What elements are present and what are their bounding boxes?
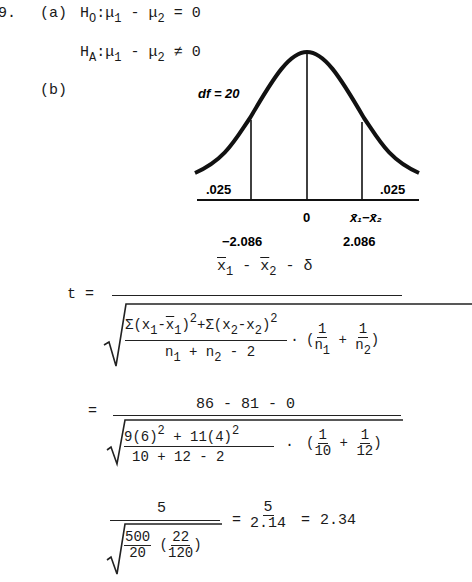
equals-sign: =: [88, 403, 97, 420]
right-tail-area: .025: [380, 182, 405, 197]
problem-number: 9.: [0, 5, 16, 22]
left-critical-value: −2.086: [222, 234, 262, 249]
substitution-inner-numerator: 9(6)2 + 11(4)2: [124, 424, 239, 445]
result-equals-2: =: [301, 512, 310, 529]
formula-fraction-bar: [112, 295, 402, 296]
inner-fraction-bar: [125, 340, 287, 341]
t-distribution-diagram: df = 20 .025 .025 0 x̄₁−x̄₂ −2.086 2.086: [180, 20, 472, 260]
substitution-inner-denominator: 10 + 12 - 2: [132, 449, 224, 465]
reciprocal-sum: (1n1 + 1n2): [306, 322, 379, 359]
inner-numerator: Σ(x1-x1)2+Σ(x2-x2)2: [125, 312, 277, 338]
substitution-reciprocal-sum: (110 + 112): [306, 428, 382, 459]
result-mid-fraction: 52.14: [250, 500, 286, 531]
inner-denominator: n1 + n2 - 2: [165, 344, 255, 365]
df-label: df = 20: [198, 86, 240, 101]
axis-label: x̄₁−x̄₂: [349, 210, 382, 225]
center-label: 0: [303, 210, 310, 225]
formula-numerator: x1 - x2 - δ: [217, 258, 312, 279]
t-label: t =: [67, 286, 94, 303]
result-root-content: 50020 (22120): [124, 530, 202, 561]
part-a-label: (a): [40, 5, 67, 22]
substitution-inner-bar: [124, 446, 274, 447]
part-b-label: (b): [40, 82, 67, 99]
substitution-numerator: 86 - 81 - 0: [196, 396, 295, 413]
multiply-dot: ·: [285, 437, 294, 454]
result-equals-1: =: [232, 512, 241, 529]
left-tail-area: .025: [206, 182, 231, 197]
t-statistic-value: 2.34: [320, 512, 356, 529]
result-numerator: 5: [157, 500, 166, 517]
right-critical-value: 2.086: [343, 234, 376, 249]
multiply-dot: ·: [290, 332, 299, 349]
